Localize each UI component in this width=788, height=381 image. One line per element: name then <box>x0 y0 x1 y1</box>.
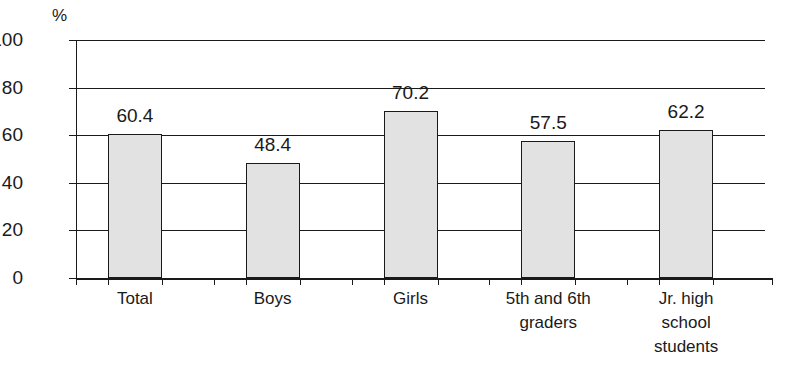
bar-chart: % 020406080100 60.448.470.257.562.2 Tota… <box>0 0 788 381</box>
bar-value-label: 70.2 <box>371 83 451 103</box>
bar <box>384 111 438 278</box>
x-axis-category-label: Total <box>65 287 205 311</box>
y-axis-tick <box>69 278 76 279</box>
y-axis-tick-label: 40 <box>0 173 23 192</box>
bar <box>659 130 713 278</box>
x-axis-line <box>76 278 772 280</box>
x-axis-tick <box>108 278 109 285</box>
x-axis-category-label-line: Total <box>65 287 205 311</box>
bar <box>108 134 162 278</box>
x-axis-tick <box>659 278 660 285</box>
x-axis-category-label-line: students <box>616 335 756 359</box>
x-axis-tick <box>489 278 490 285</box>
y-axis-tick-label: 80 <box>0 78 23 97</box>
y-axis-tick <box>69 183 76 184</box>
x-axis-tick <box>713 278 714 285</box>
x-axis-tick <box>575 278 576 285</box>
x-axis-tick <box>76 278 77 285</box>
x-axis-tick <box>352 278 353 285</box>
plot-area: 020406080100 60.448.470.257.562.2 <box>76 40 765 278</box>
y-axis-tick-label: 60 <box>0 125 23 144</box>
x-axis-category-label-line: Jr. high <box>616 287 756 311</box>
y-axis-tick-label: 100 <box>0 30 23 49</box>
x-axis-category-label-line: Boys <box>203 287 343 311</box>
x-axis-tick <box>246 278 247 285</box>
x-axis-category-label-line: school <box>616 311 756 335</box>
y-axis-tick <box>69 230 76 231</box>
bar <box>246 163 300 278</box>
x-axis-tick <box>214 278 215 285</box>
x-axis-tick <box>772 278 773 285</box>
bar-value-label: 60.4 <box>95 106 175 126</box>
bar <box>521 141 575 278</box>
x-axis-category-label-line: 5th and 6th <box>478 287 618 311</box>
y-axis-tick <box>69 40 76 41</box>
y-axis-tick-label: 0 <box>0 268 23 287</box>
x-axis-category-label: Jr. highschoolstudents <box>616 287 756 359</box>
bar-value-label: 57.5 <box>508 113 588 133</box>
x-axis-tick <box>627 278 628 285</box>
x-axis-category-label-line: graders <box>478 311 618 335</box>
y-axis-unit-label: % <box>52 6 67 26</box>
x-axis-tick <box>384 278 385 285</box>
y-axis-tick <box>69 88 76 89</box>
bar-value-label: 48.4 <box>233 135 313 155</box>
x-axis-tick <box>521 278 522 285</box>
x-axis-category-label-line: Girls <box>341 287 481 311</box>
x-axis-category-label: Girls <box>341 287 481 311</box>
x-axis-category-label: Boys <box>203 287 343 311</box>
y-axis-tick-label: 20 <box>0 220 23 239</box>
x-axis-category-label: 5th and 6thgraders <box>478 287 618 335</box>
x-axis-tick <box>300 278 301 285</box>
x-axis-tick <box>438 278 439 285</box>
gridline <box>76 40 765 41</box>
bar-value-label: 62.2 <box>646 102 726 122</box>
y-axis-tick <box>69 135 76 136</box>
x-axis-tick <box>162 278 163 285</box>
y-axis-line <box>76 40 77 278</box>
